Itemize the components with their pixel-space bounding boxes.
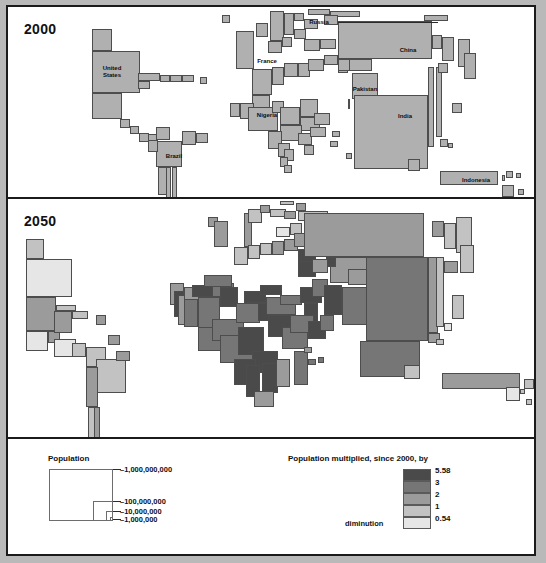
- cartogram-cell: [424, 15, 448, 21]
- cartogram-cell: [526, 399, 532, 405]
- cartogram-cell: [236, 303, 260, 323]
- population-label-100m: –100,000,000: [120, 497, 166, 506]
- cartogram-cell: [260, 243, 272, 255]
- cartogram-cell: [444, 323, 452, 331]
- cartogram-cell: [276, 227, 290, 237]
- cartogram-cell: [436, 67, 442, 137]
- cartogram-cell: [304, 39, 320, 51]
- cartogram-cell: [172, 167, 177, 199]
- cartogram-cell: [72, 343, 86, 357]
- population-legend-title: Population: [48, 454, 89, 463]
- cartogram-cell: [170, 75, 182, 82]
- country-label-line: States: [103, 72, 122, 79]
- cartogram-cell: [502, 175, 505, 181]
- cartogram-cell: [96, 359, 126, 393]
- cartogram-cell: [148, 140, 158, 152]
- cartogram-cell: [314, 113, 330, 125]
- cartogram-cell: [408, 159, 420, 171]
- cartogram-cell: [272, 241, 284, 255]
- cartogram-cell: [284, 211, 296, 219]
- cartogram-cell: [312, 259, 328, 273]
- cartogram-cell: [268, 41, 282, 53]
- cartogram-cell: [214, 221, 228, 247]
- cartogram-cell: [184, 299, 198, 327]
- cartogram-cell: [236, 31, 254, 69]
- cartogram-cell: [222, 15, 230, 23]
- cartogram-cell: [196, 133, 208, 143]
- country-label-line: Nigeria: [257, 112, 277, 119]
- cartogram-cell: [444, 261, 458, 273]
- cartogram-cell: [296, 203, 306, 211]
- cartogram-cell: [338, 21, 432, 59]
- multiplier-swatch-2: [403, 493, 431, 505]
- cartogram-cell: [156, 127, 170, 140]
- cartogram-cell: [294, 351, 308, 385]
- cartogram-cell: [138, 73, 160, 81]
- multiplier-swatch-1: [403, 505, 431, 517]
- cartogram-cell: [108, 335, 120, 345]
- cartogram-cell: [130, 126, 139, 134]
- russia-leader-line: [338, 22, 438, 23]
- cartogram-cell: [272, 67, 284, 85]
- cartogram-cell: [506, 171, 513, 178]
- country-label-nigeria: Nigeria: [257, 112, 277, 119]
- cartogram-cell: [304, 145, 314, 155]
- cartogram-cell: [72, 311, 88, 319]
- cartogram-cell: [428, 67, 434, 147]
- cartogram-2050: [8, 199, 534, 437]
- cartogram-cell: [252, 69, 272, 95]
- country-label-india: India: [398, 113, 412, 120]
- cartogram-cell: [318, 357, 324, 363]
- cartogram-cell: [348, 99, 350, 109]
- cartogram-cell: [92, 29, 112, 51]
- country-label-line: China: [400, 47, 417, 54]
- cartogram-cell: [404, 365, 420, 379]
- country-label-line: Pakistan: [353, 86, 378, 93]
- multiplier-swatch-0-54: [403, 517, 431, 529]
- map-panel-2050: 2050: [8, 199, 534, 439]
- cartogram-cell: [524, 379, 534, 389]
- cartogram-cell: [204, 275, 232, 287]
- cartogram-cell: [448, 143, 453, 148]
- cartogram-cell: [304, 213, 424, 257]
- country-label-china: China: [400, 47, 417, 54]
- cartogram-cell: [308, 359, 316, 365]
- cartogram-cell: [284, 165, 292, 173]
- cartogram-cell: [324, 55, 338, 65]
- cartogram-cell: [432, 221, 444, 237]
- cartogram-cell: [338, 59, 350, 71]
- cartogram-cell: [26, 331, 48, 351]
- cartogram-cell: [444, 223, 456, 249]
- country-label-line: United: [103, 65, 122, 72]
- cartogram-cell: [230, 103, 240, 117]
- legend-panel: Population –1,000,000,000 –100,000,000 –…: [8, 439, 534, 554]
- cartogram-cell: [120, 119, 130, 128]
- cartogram-cell: [92, 93, 122, 119]
- multiplier-value-3: 3: [435, 478, 439, 487]
- cartogram-cell: [200, 77, 207, 84]
- population-label-1b: –1,000,000,000: [120, 465, 172, 474]
- cartogram-cell: [94, 407, 100, 439]
- cartogram-cell: [440, 139, 448, 147]
- country-label-france: France: [257, 58, 277, 65]
- multiplier-swatch-5-58: [403, 469, 431, 481]
- poster-frame: 2000 UnitedStatesBrazilFranceRussiaNiger…: [6, 5, 536, 556]
- multiplier-legend-title: Population multiplied, since 2000, by: [288, 454, 428, 463]
- cartogram-cell: [518, 189, 524, 195]
- multiplier-swatch-3: [403, 481, 431, 493]
- multiplier-value-2: 2: [435, 490, 439, 499]
- country-label-united-states: UnitedStates: [103, 65, 122, 79]
- cartogram-cell: [160, 75, 170, 82]
- multiplier-value-0-54: 0.54: [435, 514, 451, 523]
- cartogram-cell: [310, 127, 326, 137]
- multiplier-value-5-58: 5.58: [435, 466, 451, 475]
- cartogram-cell: [320, 315, 334, 331]
- cartogram-cell: [234, 247, 248, 265]
- cartogram-cell: [138, 81, 150, 89]
- multiplier-value-1: 1: [435, 502, 439, 511]
- cartogram-cell: [280, 107, 300, 125]
- cartogram-cell: [276, 359, 290, 387]
- cartogram-cell: [182, 131, 196, 145]
- cartogram-cell: [520, 389, 525, 394]
- cartogram-cell: [346, 153, 352, 159]
